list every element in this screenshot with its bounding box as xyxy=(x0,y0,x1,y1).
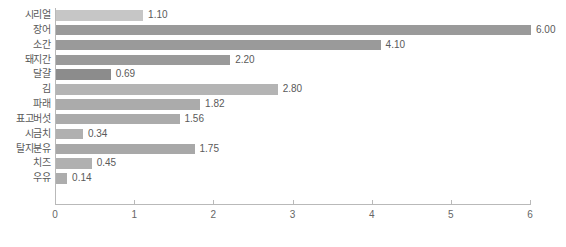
x-tick-label: 0 xyxy=(45,209,65,220)
bar xyxy=(56,55,230,66)
bar-value-label: 1.75 xyxy=(195,143,219,155)
bar xyxy=(56,144,195,155)
bar-category-label: 파래 xyxy=(0,97,51,112)
bar-track: 0.69 xyxy=(56,69,531,80)
x-tick-mark xyxy=(213,200,214,204)
bar-row: 시리얼1.10 xyxy=(0,8,566,23)
bar-value-label: 1.82 xyxy=(200,98,224,110)
bar-value-label: 2.20 xyxy=(230,54,254,66)
x-tick-mark xyxy=(372,200,373,204)
bar-value-label: 0.34 xyxy=(83,128,107,140)
bar xyxy=(56,99,200,110)
bar-value-label: 4.10 xyxy=(381,39,405,51)
bar-row: 치즈0.45 xyxy=(0,156,566,171)
bar-row: 장어6.00 xyxy=(0,23,566,38)
x-tick-label: 3 xyxy=(283,209,303,220)
bar-row: 소간4.10 xyxy=(0,38,566,53)
x-tick-label: 4 xyxy=(362,209,382,220)
bar-value-label: 6.00 xyxy=(531,24,555,36)
bar xyxy=(56,10,143,21)
bar-row: 파래1.82 xyxy=(0,97,566,112)
bar xyxy=(56,25,531,36)
x-tick-mark xyxy=(293,200,294,204)
bar-track: 6.00 xyxy=(56,25,531,36)
bar xyxy=(56,173,67,184)
bar xyxy=(56,69,111,80)
bar-track: 2.80 xyxy=(56,84,531,95)
bar xyxy=(56,40,381,51)
bar xyxy=(56,84,278,95)
x-tick-mark xyxy=(451,200,452,204)
bar-track: 1.75 xyxy=(56,144,531,155)
bar-row: 우유0.14 xyxy=(0,171,566,186)
bar-category-label: 장어 xyxy=(0,23,51,38)
bar-value-label: 0.45 xyxy=(92,157,116,169)
bar-row: 돼지간2.20 xyxy=(0,53,566,68)
bar-category-label: 소간 xyxy=(0,38,51,53)
x-tick-label: 1 xyxy=(124,209,144,220)
bar-track: 0.34 xyxy=(56,129,531,140)
x-tick-label: 2 xyxy=(203,209,223,220)
bar-category-label: 치즈 xyxy=(0,156,51,171)
bar xyxy=(56,114,180,125)
bar-category-label: 김 xyxy=(0,82,51,97)
bar-category-label: 달걀 xyxy=(0,67,51,82)
bar-row: 탈지분유1.75 xyxy=(0,142,566,157)
bar-row: 달걀0.69 xyxy=(0,67,566,82)
bar-value-label: 0.14 xyxy=(67,172,91,184)
bar-category-label: 표고버섯 xyxy=(0,112,51,127)
bar-row: 표고버섯1.56 xyxy=(0,112,566,127)
bar-value-label: 2.80 xyxy=(278,83,302,95)
x-tick-label: 6 xyxy=(520,209,540,220)
bar-row: 김2.80 xyxy=(0,82,566,97)
bar-category-label: 시금치 xyxy=(0,127,51,142)
bar-rows: 시리얼1.10장어6.00소간4.10돼지간2.20달걀0.69김2.80파래1… xyxy=(0,8,566,204)
x-tick-label: 5 xyxy=(441,209,461,220)
bar xyxy=(56,158,92,169)
bar-category-label: 우유 xyxy=(0,171,51,186)
bar-category-label: 돼지간 xyxy=(0,53,51,68)
bar-row: 시금치0.34 xyxy=(0,127,566,142)
bar-value-label: 1.56 xyxy=(180,113,204,125)
bar-track: 0.14 xyxy=(56,173,531,184)
x-tick-mark xyxy=(55,200,56,204)
bar xyxy=(56,129,83,140)
bar-track: 4.10 xyxy=(56,40,531,51)
x-tick-mark xyxy=(530,200,531,204)
bar-category-label: 시리얼 xyxy=(0,8,51,23)
x-axis-ticks: 0123456 xyxy=(0,204,566,234)
bar-track: 2.20 xyxy=(56,55,531,66)
bar-track: 1.82 xyxy=(56,99,531,110)
bar-value-label: 1.10 xyxy=(143,9,167,21)
bar-track: 1.56 xyxy=(56,114,531,125)
bar-track: 1.10 xyxy=(56,10,531,21)
bar-value-label: 0.69 xyxy=(111,68,135,80)
bar-chart: 시리얼1.10장어6.00소간4.10돼지간2.20달걀0.69김2.80파래1… xyxy=(0,0,566,247)
bar-track: 0.45 xyxy=(56,158,531,169)
x-tick-mark xyxy=(134,200,135,204)
bar-category-label: 탈지분유 xyxy=(0,142,51,157)
